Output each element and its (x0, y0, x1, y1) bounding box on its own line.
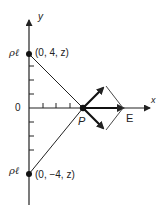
y-axis (29, 20, 34, 205)
construction-line-lower (106, 108, 123, 130)
field-vector-upper (83, 88, 103, 108)
line-upper-charge-to-p (29, 54, 83, 108)
upper-charge-symbol: ρℓ (9, 48, 19, 58)
field-label: E (126, 113, 133, 124)
lower-charge-coords: (0, −4, z) (35, 170, 75, 180)
point-p-label: P (78, 116, 85, 127)
line-lower-charge-to-p (29, 108, 83, 174)
y-axis-label: y (38, 12, 43, 22)
upper-charge-coords: (0, 4, z) (35, 48, 69, 58)
lower-charge-point (26, 171, 32, 177)
origin-label: 0 (15, 103, 21, 113)
field-vector-lower (83, 108, 103, 128)
x-axis-label: x (151, 96, 156, 105)
upper-charge-point (26, 51, 32, 57)
diagram-canvas (0, 0, 164, 215)
lower-charge-symbol: ρℓ (9, 166, 19, 176)
point-p (80, 105, 86, 111)
construction-line-upper (106, 86, 123, 108)
